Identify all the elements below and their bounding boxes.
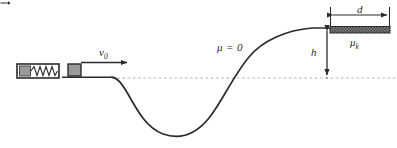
friction-strip-body bbox=[330, 27, 390, 34]
distance-label: d bbox=[357, 4, 363, 15]
spring-launcher bbox=[17, 64, 59, 78]
frictionless-label: μ = 0 bbox=[217, 42, 243, 53]
block-body bbox=[68, 64, 81, 76]
physics-diagram: v0 μ = 0 μk d h bbox=[0, 0, 397, 148]
height-label: h bbox=[311, 47, 317, 58]
friction-strip bbox=[330, 27, 390, 34]
diagram-canvas bbox=[0, 0, 397, 148]
velocity-label: v0 bbox=[99, 47, 108, 61]
spring-launcher-block bbox=[20, 66, 31, 76]
friction-coefficient-subscript: k bbox=[356, 42, 359, 51]
friction-coefficient-label: μk bbox=[350, 37, 359, 51]
block bbox=[68, 64, 81, 76]
velocity-label-subscript: 0 bbox=[104, 52, 108, 61]
